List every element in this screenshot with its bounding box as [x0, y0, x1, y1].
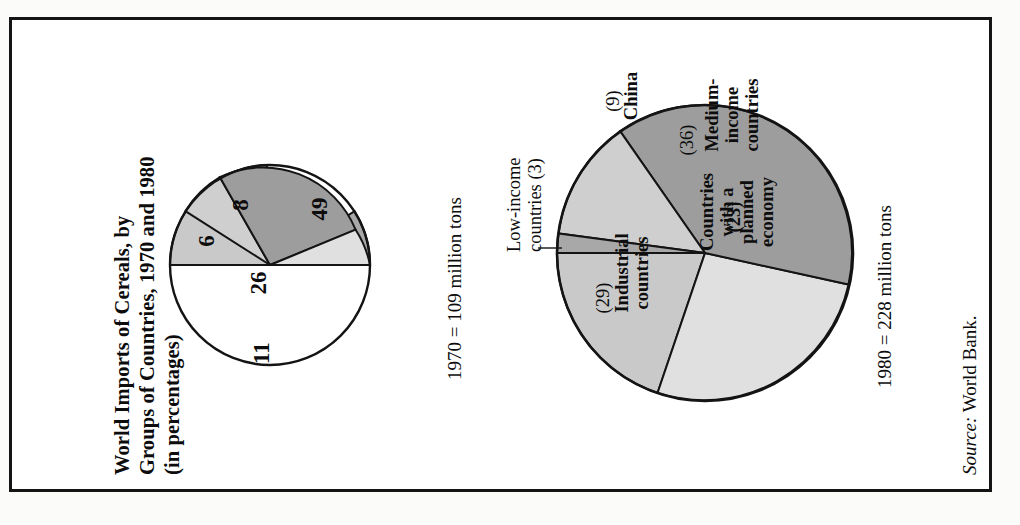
pie-chart-1980: Medium- income countries (36) China (9) …	[547, 75, 867, 425]
pie-1980-label-medium-income-value: (36)	[677, 105, 697, 175]
low-income-callout-label: Low-income countries (3)	[504, 157, 546, 252]
pie-1970-label-medium-income: 26	[246, 253, 272, 313]
figure-frame: World Imports of Cereals, by Groups of C…	[9, 17, 992, 492]
pie-1970-label-china: 6	[194, 221, 220, 261]
source-note: Source: World Bank.	[959, 316, 981, 475]
pie-1980-label-industrial-name: Industrial countries	[612, 213, 652, 333]
pie-1980-label-planned-economy-text: Countries with a planned economy	[697, 137, 777, 287]
pie-chart-1970: 26 6 8 49 11	[162, 155, 378, 377]
pie-1980-label-china-name: China	[621, 61, 641, 131]
pie-1980-label-industrial-value: (29)	[593, 263, 613, 333]
pie-1980-label-china-value: (9)	[603, 71, 623, 131]
pie-1970-caption: 1970 = 109 million tons	[444, 197, 466, 380]
pie-1970-label-low-income: 8	[228, 185, 254, 225]
pie-1970-label-industrial: 49	[307, 179, 333, 239]
source-prefix: Source:	[959, 417, 980, 475]
figure-page: World Imports of Cereals, by Groups of C…	[0, 0, 1020, 525]
pie-1980-caption: 1980 = 228 million tons	[874, 205, 896, 388]
pie-1970-label-planned-economy: 11	[249, 323, 275, 383]
source-value: World Bank.	[959, 316, 980, 417]
